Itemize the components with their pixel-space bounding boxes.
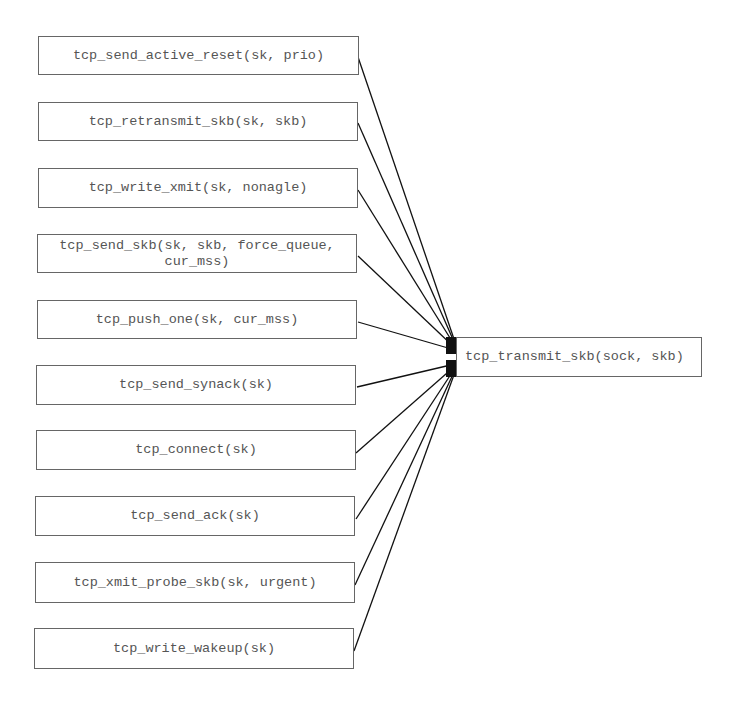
caller-label: tcp_send_skb(sk, skb, force_queue, cur_m… xyxy=(59,238,334,270)
caller-tcp-retransmit-skb: tcp_retransmit_skb(sk, skb) xyxy=(38,102,358,141)
arrowhead-cluster-top xyxy=(446,337,456,354)
caller-label: tcp_write_wakeup(sk) xyxy=(113,641,275,657)
caller-label: tcp_connect(sk) xyxy=(135,442,257,458)
caller-tcp-send-skb: tcp_send_skb(sk, skb, force_queue, cur_m… xyxy=(37,234,357,273)
caller-tcp-xmit-probe-skb: tcp_xmit_probe_skb(sk, urgent) xyxy=(35,562,355,603)
target-label: tcp_transmit_skb(sock, skb) xyxy=(465,349,684,365)
arrowhead-cluster-bottom xyxy=(446,360,456,377)
caller-tcp-send-ack: tcp_send_ack(sk) xyxy=(35,496,355,536)
caller-tcp-push-one: tcp_push_one(sk, cur_mss) xyxy=(37,300,357,339)
caller-label: tcp_xmit_probe_skb(sk, urgent) xyxy=(73,575,316,591)
caller-label: tcp_write_xmit(sk, nonagle) xyxy=(89,180,308,196)
caller-label: tcp_retransmit_skb(sk, skb) xyxy=(89,114,308,130)
caller-label: tcp_push_one(sk, cur_mss) xyxy=(96,312,299,328)
target-tcp-transmit-skb: tcp_transmit_skb(sock, skb) xyxy=(456,337,702,377)
caller-tcp-send-active-reset: tcp_send_active_reset(sk, prio) xyxy=(38,36,359,75)
caller-label: tcp_send_ack(sk) xyxy=(130,508,260,524)
caller-tcp-connect: tcp_connect(sk) xyxy=(36,430,356,470)
caller-label: tcp_send_active_reset(sk, prio) xyxy=(73,48,324,64)
caller-tcp-write-wakeup: tcp_write_wakeup(sk) xyxy=(34,628,354,669)
caller-tcp-send-synack: tcp_send_synack(sk) xyxy=(36,365,356,405)
caller-tcp-write-xmit: tcp_write_xmit(sk, nonagle) xyxy=(38,168,358,208)
caller-label: tcp_send_synack(sk) xyxy=(119,377,273,393)
